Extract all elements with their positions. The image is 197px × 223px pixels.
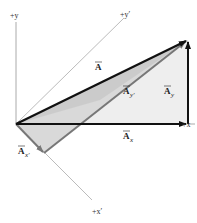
ax-prime-label: A x′ <box>18 146 30 159</box>
y-prime-axis-label: +y′ <box>120 10 131 19</box>
a-label: A <box>95 62 102 72</box>
svg-text:A: A <box>123 86 130 96</box>
svg-text:A: A <box>95 62 102 72</box>
svg-text:A: A <box>18 146 25 156</box>
svg-text:x′: x′ <box>24 151 30 159</box>
x-prime-axis-label: +x′ <box>92 207 103 216</box>
svg-text:A: A <box>123 131 130 141</box>
ax-label: A x <box>123 131 134 144</box>
svg-text:y′: y′ <box>129 91 135 99</box>
svg-text:x: x <box>129 136 134 144</box>
vector-components-diagram: +y +y′ +x +x′ A A y′ A y A x A x′ <box>0 0 197 223</box>
svg-text:A: A <box>164 86 171 96</box>
y-axis-label: +y <box>10 11 19 20</box>
x-axis-label: +x <box>182 120 191 129</box>
